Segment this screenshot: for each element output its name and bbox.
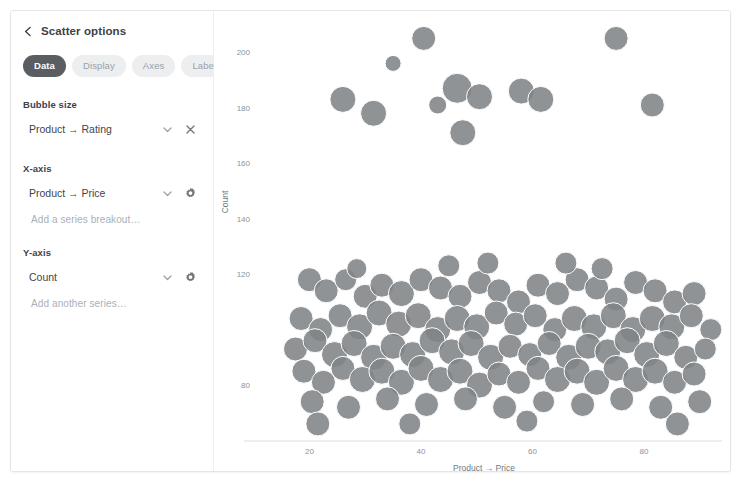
- bubble-point[interactable]: [330, 86, 356, 112]
- y-tick-label: 140: [237, 215, 251, 224]
- bubble-point[interactable]: [555, 252, 577, 274]
- bubble-size-value: Product → Rating: [29, 123, 161, 135]
- bubble-point[interactable]: [640, 93, 664, 117]
- bubble-point[interactable]: [429, 96, 447, 114]
- x-axis-field[interactable]: Product → Price: [23, 181, 201, 205]
- add-series-breakout-button[interactable]: Add a series breakout…: [23, 205, 201, 225]
- x-axis-title: Product → Price: [453, 463, 515, 471]
- gear-icon[interactable]: [184, 271, 197, 284]
- gear-icon[interactable]: [184, 187, 197, 200]
- bubble-point[interactable]: [688, 390, 712, 414]
- bubble-point[interactable]: [477, 252, 499, 274]
- bubble-point[interactable]: [516, 410, 538, 432]
- bubble-point[interactable]: [682, 362, 706, 386]
- panel-header: Scatter options: [11, 11, 213, 37]
- y-tick-label: 80: [241, 381, 250, 390]
- y-tick-label: 180: [237, 104, 251, 113]
- tab-axes[interactable]: Axes: [132, 55, 176, 77]
- bubble-point[interactable]: [679, 304, 703, 328]
- bubble-point[interactable]: [300, 390, 324, 414]
- bubble-point[interactable]: [694, 338, 716, 360]
- bubble-point[interactable]: [347, 259, 367, 279]
- bubble-point[interactable]: [399, 413, 421, 435]
- bubble-point[interactable]: [450, 120, 476, 146]
- bubble-size-actions: [161, 123, 201, 136]
- bubble-point[interactable]: [376, 387, 400, 411]
- bubble-point[interactable]: [337, 395, 361, 419]
- bubble-point[interactable]: [493, 395, 517, 419]
- page-title: Scatter options: [41, 25, 126, 37]
- bubble-point[interactable]: [454, 387, 478, 411]
- bubble-point[interactable]: [412, 26, 436, 50]
- y-axis-field[interactable]: Count: [23, 265, 201, 289]
- y-axis-title: Count: [220, 190, 230, 213]
- bubble-point[interactable]: [571, 393, 595, 417]
- y-axis-value: Count: [29, 271, 161, 283]
- bubble-point[interactable]: [415, 393, 439, 417]
- bubble-point[interactable]: [306, 412, 330, 436]
- tab-display[interactable]: Display: [72, 55, 126, 77]
- x-tick-label: 20: [305, 447, 314, 456]
- scatter-options-card: Scatter options Data Display Axes Labels…: [10, 10, 731, 472]
- y-tick-label: 120: [237, 270, 251, 279]
- bubble-point[interactable]: [533, 391, 555, 413]
- bubble-point[interactable]: [591, 258, 613, 280]
- scatter-chart[interactable]: 80120140160180200Count20406080Product → …: [214, 11, 730, 471]
- chevron-left-icon[interactable]: [23, 26, 33, 36]
- bubble-point[interactable]: [361, 100, 387, 126]
- add-another-series-button[interactable]: Add another series…: [23, 289, 201, 309]
- chevron-down-icon[interactable]: [161, 271, 174, 284]
- tab-bar: Data Display Axes Labels: [11, 37, 213, 77]
- x-axis-value: Product → Price: [29, 187, 161, 199]
- bubble-size-field[interactable]: Product → Rating: [23, 117, 201, 141]
- y-tick-label: 200: [237, 48, 251, 57]
- x-axis-label: X-axis: [23, 163, 201, 174]
- bubble-point[interactable]: [604, 26, 628, 50]
- y-axis-actions: [161, 271, 201, 284]
- bubble-point[interactable]: [385, 55, 401, 71]
- close-icon[interactable]: [184, 123, 197, 136]
- settings-panel: Scatter options Data Display Axes Labels…: [11, 11, 214, 471]
- bubble-point[interactable]: [438, 255, 460, 277]
- chevron-down-icon[interactable]: [161, 123, 174, 136]
- bubble-point[interactable]: [665, 412, 689, 436]
- scatter-plot-svg: 80120140160180200Count20406080Product → …: [214, 11, 730, 471]
- bubble-point[interactable]: [467, 84, 493, 110]
- bubble-point[interactable]: [528, 86, 554, 112]
- y-tick-label: 160: [237, 159, 251, 168]
- bubble-point[interactable]: [610, 387, 634, 411]
- bubble-point[interactable]: [700, 319, 722, 341]
- fields-section: Bubble size Product → Rating X-axis Prod…: [11, 99, 213, 309]
- bubble-point[interactable]: [682, 282, 706, 306]
- chevron-down-icon[interactable]: [161, 187, 174, 200]
- y-axis-label: Y-axis: [23, 247, 201, 258]
- tab-data[interactable]: Data: [23, 55, 66, 77]
- bubble-size-label: Bubble size: [23, 99, 201, 110]
- x-tick-label: 60: [528, 447, 537, 456]
- x-axis-actions: [161, 187, 201, 200]
- x-tick-label: 80: [639, 447, 648, 456]
- x-tick-label: 40: [416, 447, 425, 456]
